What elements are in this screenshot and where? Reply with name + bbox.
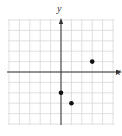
coordinate-plane: x y	[0, 0, 122, 136]
y-axis-arrow-icon	[59, 18, 63, 24]
axes	[7, 18, 122, 125]
y-axis-label: y	[56, 3, 62, 14]
data-point	[90, 59, 95, 64]
data-point	[59, 91, 64, 96]
data-point	[69, 101, 74, 106]
x-axis-label: x	[115, 66, 121, 77]
